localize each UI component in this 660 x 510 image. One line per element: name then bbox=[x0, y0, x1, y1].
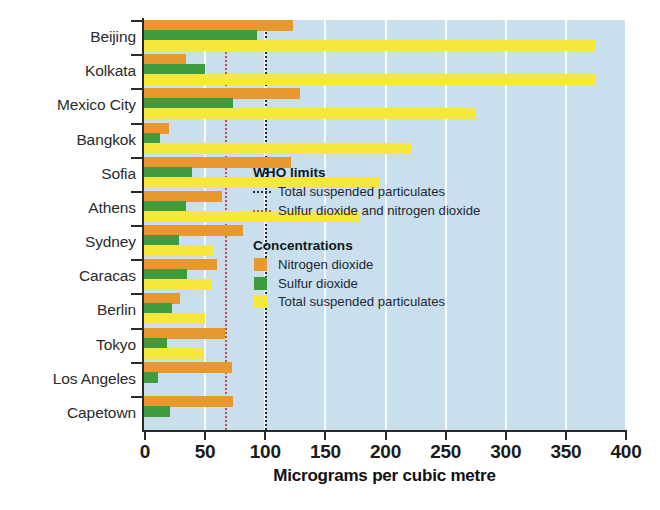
x-tick-label-150: 150 bbox=[310, 441, 341, 463]
x-tick bbox=[204, 430, 206, 440]
x-tick bbox=[264, 430, 266, 440]
x-tick-label-350: 350 bbox=[550, 441, 581, 463]
x-tick-label-250: 250 bbox=[430, 441, 461, 463]
x-axis-title: Micrograms per cubic metre bbox=[144, 466, 625, 486]
y-label-athens: Athens bbox=[4, 199, 136, 217]
y-label-kolkata: Kolkata bbox=[4, 62, 136, 80]
bar-bangkok-tsp bbox=[144, 143, 411, 154]
y-label-berlin: Berlin bbox=[4, 301, 136, 319]
y-label-tokyo: Tokyo bbox=[4, 336, 136, 354]
x-tick-label-0: 0 bbox=[140, 441, 150, 463]
x-tick-label-200: 200 bbox=[370, 441, 401, 463]
x-tick bbox=[324, 430, 326, 440]
legend-who-heading: WHO limits bbox=[253, 164, 481, 182]
air-quality-bar-chart: BeijingKolkataMexico CityBangkokSofiaAth… bbox=[0, 0, 660, 510]
legend-label: Total suspended particulates bbox=[278, 293, 481, 311]
swatch-orange-icon bbox=[253, 256, 273, 273]
dotted-line-red-icon bbox=[253, 202, 273, 219]
x-tick bbox=[144, 430, 146, 440]
bar-los-angeles-so2 bbox=[144, 372, 158, 383]
bar-sydney-tsp bbox=[144, 245, 213, 256]
legend-item-nitrogen-dioxide: Nitrogen dioxide bbox=[253, 256, 481, 274]
y-label-bangkok: Bangkok bbox=[4, 131, 136, 149]
swatch-green-icon bbox=[253, 275, 273, 292]
y-label-beijing: Beijing bbox=[4, 28, 136, 46]
y-label-mexico-city: Mexico City bbox=[4, 96, 136, 114]
legend-concentrations-heading: Concentrations bbox=[253, 237, 481, 255]
chart-legend: WHO limits Total suspended particulates … bbox=[253, 164, 481, 312]
x-tick bbox=[625, 430, 627, 440]
legend-spacer bbox=[253, 220, 481, 237]
legend-item-who-sox-nox: Sulfur dioxide and nitrogen dioxide bbox=[253, 202, 481, 220]
y-label-sofia: Sofia bbox=[4, 165, 136, 183]
x-tick-label-300: 300 bbox=[490, 441, 521, 463]
bar-tokyo-tsp bbox=[144, 348, 204, 359]
bar-caracas-tsp bbox=[144, 279, 211, 290]
x-tick-label-50: 50 bbox=[195, 441, 216, 463]
dotted-line-navy-icon bbox=[253, 183, 273, 200]
bar-mexico-city-tsp bbox=[144, 108, 476, 119]
y-label-los-angeles: Los Angeles bbox=[4, 370, 136, 388]
y-axis-labels: BeijingKolkataMexico CityBangkokSofiaAth… bbox=[0, 0, 136, 510]
y-label-sydney: Sydney bbox=[4, 233, 136, 251]
legend-item-who-tsp: Total suspended particulates bbox=[253, 183, 481, 201]
bar-capetown-so2 bbox=[144, 406, 170, 417]
legend-item-total-suspended-particulates: Total suspended particulates bbox=[253, 293, 481, 311]
x-tick bbox=[565, 430, 567, 440]
x-tick bbox=[445, 430, 447, 440]
legend-label: Total suspended particulates bbox=[278, 183, 481, 201]
x-tick-label-100: 100 bbox=[250, 441, 281, 463]
y-label-caracas: Caracas bbox=[4, 267, 136, 285]
x-tick-label-400: 400 bbox=[611, 441, 642, 463]
x-tick bbox=[505, 430, 507, 440]
legend-label: Sulfur dioxide and nitrogen dioxide bbox=[278, 202, 481, 220]
x-tick bbox=[385, 430, 387, 440]
bar-beijing-tsp bbox=[144, 40, 596, 51]
legend-label: Sulfur dioxide bbox=[278, 275, 481, 293]
bar-berlin-tsp bbox=[144, 313, 205, 324]
y-label-capetown: Capetown bbox=[4, 404, 136, 422]
swatch-yellow-icon bbox=[253, 293, 273, 310]
legend-label: Nitrogen dioxide bbox=[278, 256, 481, 274]
legend-item-sulfur-dioxide: Sulfur dioxide bbox=[253, 275, 481, 293]
bar-kolkata-tsp bbox=[144, 74, 595, 85]
